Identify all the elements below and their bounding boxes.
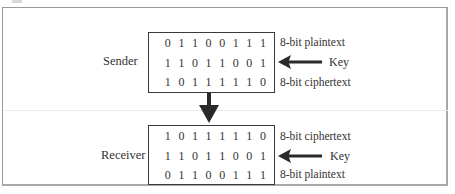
bit: 1	[256, 33, 270, 53]
bit: 1	[188, 126, 202, 146]
bit: 1	[188, 165, 202, 185]
bit: 0	[215, 165, 229, 185]
sender-plaintext-row: 0 1 1 0 0 1 1 1	[149, 33, 274, 53]
bit: 0	[229, 146, 243, 166]
bit: 1	[188, 72, 202, 92]
section-divider	[3, 110, 448, 111]
bit: 0	[202, 33, 216, 53]
figure-caption-fragment	[12, 0, 22, 3]
bit: 1	[161, 126, 175, 146]
bit: 1	[215, 72, 229, 92]
bit: 1	[175, 33, 189, 53]
bit: 1	[229, 126, 243, 146]
sender-ciphertext-label: 8-bit ciphertext	[280, 76, 351, 88]
bit: 0	[175, 72, 189, 92]
receiver-plaintext-label: 8-bit plaintext	[280, 168, 345, 180]
bit: 1	[161, 72, 175, 92]
bit: 1	[229, 72, 243, 92]
bit: 1	[215, 53, 229, 73]
bit: 0	[215, 33, 229, 53]
receiver-bit-box: 1 0 1 1 1 1 1 0 1 1 0 1 1 0 0 1 0 1 1 0 …	[148, 125, 275, 185]
bit: 0	[256, 72, 270, 92]
bit: 1	[202, 72, 216, 92]
bit: 1	[215, 146, 229, 166]
bit: 1	[229, 33, 243, 53]
bit: 0	[256, 126, 270, 146]
bit: 1	[175, 146, 189, 166]
sender-plaintext-label: 8-bit plaintext	[280, 36, 345, 48]
sender-ciphertext-row: 1 0 1 1 1 1 1 0	[149, 72, 274, 92]
receiver-ciphertext-row: 1 0 1 1 1 1 1 0	[149, 126, 274, 146]
receiver-label: Receiver	[101, 148, 145, 163]
bit: 1	[243, 165, 257, 185]
bit: 1	[175, 165, 189, 185]
bit: 1	[161, 146, 175, 166]
bit: 0	[161, 33, 175, 53]
bit: 1	[175, 53, 189, 73]
receiver-key-row: 1 1 0 1 1 0 0 1	[149, 146, 274, 166]
bit: 0	[188, 146, 202, 166]
left-arrow-icon	[278, 149, 322, 163]
bit: 1	[256, 165, 270, 185]
bit: 1	[243, 126, 257, 146]
bit: 0	[161, 165, 175, 185]
bit: 1	[215, 126, 229, 146]
bit: 1	[256, 53, 270, 73]
bit: 0	[243, 53, 257, 73]
bit: 1	[243, 72, 257, 92]
bit: 1	[256, 146, 270, 166]
left-arrow-icon	[278, 55, 322, 69]
down-arrow-icon	[199, 93, 219, 123]
receiver-ciphertext-label: 8-bit ciphertext	[280, 130, 351, 142]
sender-key-label: Key	[329, 55, 349, 70]
bit: 0	[229, 53, 243, 73]
sender-label: Sender	[103, 54, 138, 69]
bit: 1	[243, 33, 257, 53]
bit: 0	[202, 165, 216, 185]
bit: 1	[202, 146, 216, 166]
bit: 0	[175, 126, 189, 146]
receiver-plaintext-row: 0 1 1 0 0 1 1 1	[149, 165, 274, 185]
sender-key-row: 1 1 0 1 1 0 0 1	[149, 53, 274, 73]
receiver-key-label: Key	[330, 149, 350, 164]
sender-bit-box: 0 1 1 0 0 1 1 1 1 1 0 1 1 0 0 1 1 0 1 1 …	[148, 32, 275, 93]
bit: 1	[229, 165, 243, 185]
bit: 0	[188, 53, 202, 73]
bit: 1	[188, 33, 202, 53]
bit: 0	[243, 146, 257, 166]
bit: 1	[161, 53, 175, 73]
bit: 1	[202, 53, 216, 73]
bit: 1	[202, 126, 216, 146]
